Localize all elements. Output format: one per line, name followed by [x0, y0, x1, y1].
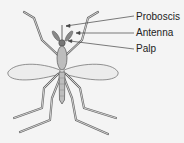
head [59, 40, 65, 46]
thorax [57, 46, 67, 70]
label-proboscis: Proboscis [136, 11, 180, 22]
palp-leader [70, 41, 134, 49]
label-palp: Palp [136, 43, 156, 54]
label-antenna: Antenna [136, 27, 173, 38]
abdomen [59, 72, 65, 104]
left-wing [8, 64, 60, 80]
right-wing [64, 64, 118, 80]
proboscis-leader [66, 16, 134, 26]
